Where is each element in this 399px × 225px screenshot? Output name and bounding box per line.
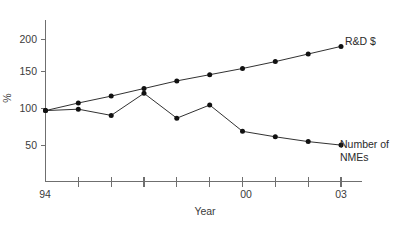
data-point-rd-2003: [339, 44, 344, 49]
series-label-nme-line2: NMEs: [340, 151, 369, 163]
y-tick-label-200: 200: [19, 33, 37, 45]
x-tick-label-00: 00: [240, 188, 252, 200]
y-axis-title: %: [1, 93, 13, 102]
data-point-nme-1998: [174, 116, 179, 121]
data-point-rd-1999: [207, 72, 212, 77]
y-tick-label-150: 150: [19, 65, 37, 77]
x-tick-label-03: 03: [335, 188, 347, 200]
data-point-nme-1996: [109, 113, 114, 118]
data-point-rd-1998: [174, 78, 179, 83]
series-label-rd: R&D $: [345, 35, 376, 47]
data-point-rd-2000: [240, 66, 245, 71]
data-point-rd-2002: [306, 52, 311, 57]
data-point-nme-2001: [273, 134, 278, 139]
data-point-rd-1997: [142, 86, 147, 91]
data-point-nme-1997: [142, 91, 147, 96]
y-tick-label-50: 50: [25, 139, 37, 151]
data-point-rd-2001: [273, 59, 278, 64]
data-point-nme-1994: [43, 108, 48, 113]
data-point-nme-1999: [207, 103, 212, 108]
chart-container: 200 150 100 50 % 94 00 03 Year R&D $ Num…: [0, 0, 399, 225]
y-tick-label-100: 100: [19, 102, 37, 114]
x-tick-label-94: 94: [39, 188, 51, 200]
data-point-nme-2000: [240, 129, 245, 134]
data-point-rd-1995: [76, 101, 81, 106]
series-label-nme-line1: Number of: [340, 138, 389, 150]
line-chart: 200 150 100 50 % 94 00 03 Year R&D $ Num…: [0, 0, 399, 225]
data-point-nme-1995: [76, 107, 81, 112]
data-point-rd-1996: [109, 94, 114, 99]
x-axis-title: Year: [194, 205, 216, 217]
data-point-nme-2002: [306, 139, 311, 144]
